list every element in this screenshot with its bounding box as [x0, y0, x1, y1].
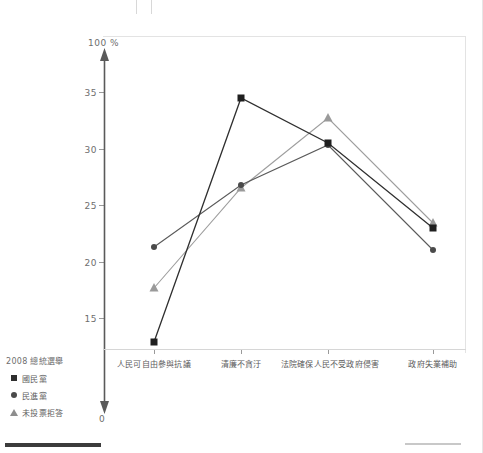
square-marker-icon	[6, 375, 22, 381]
data-point-undecided-3	[324, 113, 333, 122]
data-point-kmt-1	[151, 339, 158, 346]
series-line-undecided	[150, 113, 438, 292]
legend-item-kmt[interactable]: 國民黨	[6, 373, 100, 383]
series-line-dpp	[151, 142, 436, 253]
legend-item-label: 未投票拒答	[22, 407, 64, 418]
triangle-marker-icon	[6, 409, 22, 416]
data-point-dpp-2	[238, 182, 244, 188]
data-point-kmt-2	[238, 95, 245, 102]
bottom-left-bar	[5, 443, 101, 447]
chart-legend: 2008 總統選舉 國民黨 民進黨 未投票拒答	[6, 355, 100, 424]
bottom-right-bar	[405, 443, 461, 445]
legend-item-undecided[interactable]: 未投票拒答	[6, 407, 100, 417]
series-line-kmt	[151, 95, 437, 346]
legend-item-label: 民進黨	[22, 390, 47, 401]
data-point-dpp-4	[430, 247, 436, 253]
page-root: 100 % 0 35 30 25 20 15 人民可自由參與抗議 清廉不貪汙 法…	[0, 0, 483, 453]
y-axis	[100, 48, 109, 414]
data-point-dpp-1	[151, 244, 157, 250]
line-chart: 100 % 0 35 30 25 20 15 人民可自由參與抗議 清廉不貪汙 法…	[0, 0, 483, 453]
legend-item-dpp[interactable]: 民進黨	[6, 390, 100, 400]
circle-marker-icon	[6, 392, 22, 398]
data-point-kmt-3	[325, 140, 332, 147]
legend-title: 2008 總統選舉	[6, 355, 100, 366]
legend-item-label: 國民黨	[22, 373, 47, 384]
data-point-kmt-4	[430, 225, 437, 232]
